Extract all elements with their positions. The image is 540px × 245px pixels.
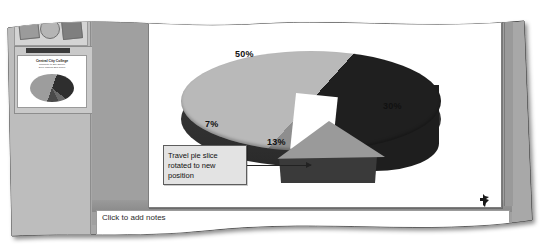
canvas-right-margin xyxy=(504,16,513,206)
move-cursor-icon xyxy=(479,193,493,209)
pie-label-30: 30% xyxy=(383,101,402,111)
pie-label-7: 7% xyxy=(205,119,218,129)
callout-box[interactable]: Travel pie slice rotated to new position xyxy=(163,145,247,185)
thumb-pie-chart xyxy=(30,74,74,102)
application-window: Central City College Commute to Site Sou… xyxy=(0,0,540,245)
pie-chart[interactable]: 50% 30% 7% 13% Travel pie slice rotated … xyxy=(161,25,461,190)
pie-label-13: 13% xyxy=(267,137,286,147)
notes-placeholder-text: Click to add notes xyxy=(102,213,166,222)
screenshot-root: Central City College Commute to Site Sou… xyxy=(0,0,540,245)
slide-editing-surface[interactable]: 50% 30% 7% 13% Travel pie slice rotated … xyxy=(148,16,502,208)
slide-selection-bar xyxy=(26,48,70,53)
callout-leader-arrow xyxy=(247,165,311,166)
exploded-slice-side xyxy=(279,155,379,183)
pie-slice-travel-exploded[interactable] xyxy=(273,121,385,185)
pie-label-50: 50% xyxy=(235,49,254,59)
slide-thumbnail-1[interactable]: Central City College Commute to Site Sou… xyxy=(17,55,87,108)
thumb-legend: Drive Carpool Bus Travel xyxy=(18,66,86,69)
clipped-content: Central City College Commute to Site Sou… xyxy=(0,0,540,245)
